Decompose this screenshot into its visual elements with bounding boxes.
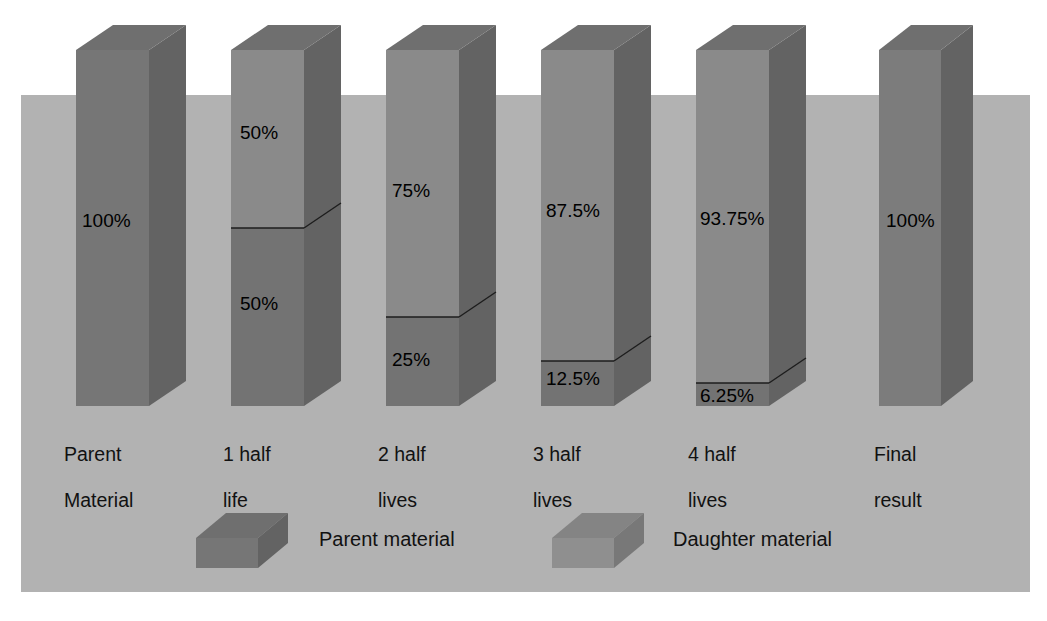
category-label-line1: 3 half <box>533 443 581 466</box>
category-label-2-half-lives: 2 half lives <box>378 420 426 535</box>
value-label-3-half-lives-parent: 12.5% <box>546 368 600 390</box>
category-label-line1: 2 half <box>378 443 426 466</box>
category-label-line1: 4 half <box>688 443 736 466</box>
value-label-2-half-lives-parent: 25% <box>392 349 430 371</box>
value-label-4-half-lives-daughter: 93.75% <box>700 208 764 230</box>
bar-side-face <box>769 25 806 406</box>
bar-side-face <box>941 25 973 406</box>
legend-swatch-front-face <box>196 538 258 568</box>
bar-1-half-life <box>231 25 341 406</box>
category-label-line1: Parent <box>64 443 133 466</box>
value-label-4-half-lives-parent: 6.25% <box>700 385 754 407</box>
category-label-line1: 1 half <box>223 443 271 466</box>
category-label-line2: lives <box>688 489 736 512</box>
legend-label-parent-material: Parent material <box>319 528 455 551</box>
value-label-2-half-lives-daughter: 75% <box>392 180 430 202</box>
legend-swatch-front-face <box>552 538 614 568</box>
category-label-line2: lives <box>378 489 426 512</box>
category-label-parent-material: Parent Material <box>64 420 133 535</box>
category-label-line2: life <box>223 489 271 512</box>
bar-side-face <box>459 25 496 406</box>
bar-side-face <box>149 25 186 406</box>
category-label-line1: Final <box>874 443 922 466</box>
legend-label-daughter-material: Daughter material <box>673 528 832 551</box>
category-label-3-half-lives: 3 half lives <box>533 420 581 535</box>
category-label-line2: Material <box>64 489 133 512</box>
value-label-1-half-life-daughter: 50% <box>240 122 278 144</box>
value-label-final-result-daughter: 100% <box>886 210 935 232</box>
value-label-1-half-life-parent: 50% <box>240 293 278 315</box>
value-label-parent-material-parent: 100% <box>82 210 131 232</box>
value-label-3-half-lives-daughter: 87.5% <box>546 200 600 222</box>
category-label-line2: result <box>874 489 922 512</box>
category-label-line2: lives <box>533 489 581 512</box>
category-label-4-half-lives: 4 half lives <box>688 420 736 535</box>
figure-canvas: 100% 50% 50% 75% 25% 87.5% 12.5% 93.75% … <box>0 0 1047 621</box>
category-label-final-result: Final result <box>874 420 922 535</box>
category-label-1-half-life: 1 half life <box>223 420 271 535</box>
bar-front-face-parent <box>231 228 304 406</box>
